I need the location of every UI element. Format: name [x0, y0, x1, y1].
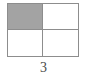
fraction-grid: [7, 3, 79, 57]
figure-caption-number: 3: [0, 60, 87, 76]
grid-cell-row1-col1[interactable]: [43, 30, 78, 56]
grid-cell-row0-col0[interactable]: [8, 4, 43, 30]
grid-cell-row0-col1[interactable]: [43, 4, 78, 30]
grid-cell-row1-col0[interactable]: [8, 30, 43, 56]
fraction-figure: 3: [0, 0, 87, 80]
